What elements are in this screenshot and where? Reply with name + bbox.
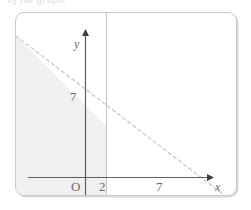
origin-label: O bbox=[71, 180, 80, 193]
clipped-caption-text: of the graph. bbox=[8, 0, 158, 5]
y-axis-label: y bbox=[74, 38, 79, 50]
graph-panel: O 2 7 7 y x bbox=[15, 12, 237, 196]
x-axis-arrowhead bbox=[207, 174, 214, 181]
x-tick-label-7: 7 bbox=[156, 180, 163, 193]
y-axis-arrowhead bbox=[82, 29, 89, 36]
y-tick-label-7: 7 bbox=[70, 90, 77, 103]
x-tick-label-2: 2 bbox=[99, 180, 106, 193]
x-axis-label: x bbox=[215, 181, 220, 193]
figure-root: of the graph. O 2 7 7 y x bbox=[0, 0, 251, 210]
shaded-feasible-region bbox=[16, 36, 106, 195]
coordinate-plane-svg bbox=[16, 13, 236, 195]
